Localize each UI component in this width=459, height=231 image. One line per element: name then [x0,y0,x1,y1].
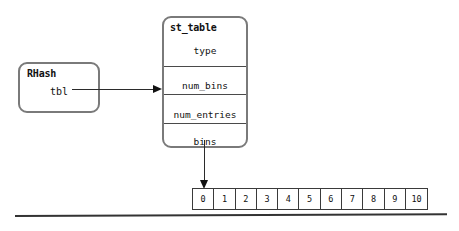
bin-cell: 1 [214,189,235,209]
bin-cell: 10 [406,189,427,209]
bin-cell: 5 [299,189,320,209]
tbl-pointer-arrowhead-icon [153,85,162,93]
st-table-field-num-bins: num_bins [164,80,246,91]
st-table-divider [164,66,246,67]
st-table-divider [164,94,246,95]
st-table-field-num-entries: num_entries [164,109,246,120]
bin-cell: 7 [342,189,363,209]
bins-array: 0 1 2 3 4 5 6 7 8 9 10 [192,188,428,210]
bin-cell: 4 [278,189,299,209]
bin-cell: 6 [321,189,342,209]
bin-cell: 8 [363,189,384,209]
st-table-struct-box: st_table type num_bins num_entries bins [162,16,248,148]
bin-cell: 2 [236,189,257,209]
st-table-field-type: type [164,45,246,56]
tbl-pointer-line [72,89,155,90]
page-bottom-rule [15,213,447,217]
st-table-divider [164,123,246,124]
rhash-field-tbl: tbl [20,86,98,97]
rhash-struct-box: RHash tbl [18,62,100,113]
st-table-field-bins: bins [164,136,246,147]
bin-cell: 0 [193,189,214,209]
diagram-canvas: RHash tbl st_table type num_bins num_ent… [0,0,459,231]
rhash-struct-title: RHash [27,68,56,79]
bins-pointer-line [204,140,205,182]
bin-cell: 9 [385,189,406,209]
st-table-struct-title: st_table [170,22,217,33]
bin-cell: 3 [257,189,278,209]
